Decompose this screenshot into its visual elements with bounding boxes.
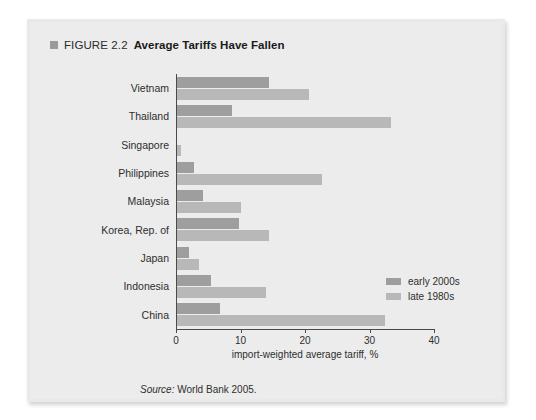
y-axis-category-labels: VietnamThailandSingaporePhilippinesMalay… [58,74,176,329]
x-axis-tick-label: 40 [428,335,439,346]
x-axis-tick [241,329,242,333]
legend-label: late 1980s [408,291,454,302]
legend-label: early 2000s [408,276,460,287]
bar [177,259,199,270]
bar [177,230,269,241]
figure-panel: FIGURE 2.2 Average Tariffs Have Fallen V… [27,19,505,402]
bar [177,247,189,258]
figure-root: FIGURE 2.2 Average Tariffs Have Fallen V… [0,0,536,420]
bar [177,117,391,128]
bar-group [177,102,434,130]
bar-group [177,187,434,215]
x-axis-tick-label: 0 [173,335,179,346]
source-label: Source: [140,384,174,395]
bar-group [177,301,434,329]
bar [177,89,309,100]
x-axis-tick-label: 20 [299,335,310,346]
legend-swatch-icon [386,278,401,285]
bar [177,174,322,185]
bar [177,145,181,156]
y-axis-label: Malaysia [58,187,176,215]
bar-group [177,131,434,159]
y-axis-label: China [58,301,176,329]
bar [177,77,269,88]
y-axis-label: Thailand [58,102,176,130]
bar [177,303,220,314]
x-axis-tick-label: 30 [364,335,375,346]
bar [177,105,232,116]
bar [177,287,266,298]
y-axis-label: Philippines [58,159,176,187]
x-axis-tick [370,329,371,333]
chart-plot-area: VietnamThailandSingaporePhilippinesMalay… [30,22,502,399]
x-axis-tick [176,329,177,333]
source-value: World Bank 2005. [177,384,256,395]
bar [177,218,239,229]
legend-item: early 2000s [386,274,460,289]
y-axis-label: Indonesia [58,272,176,300]
bar-group [177,74,434,102]
source-note: Source: World Bank 2005. [140,384,257,395]
legend-item: late 1980s [386,289,460,304]
bar-group [177,159,434,187]
bar-group [177,216,434,244]
bar [177,202,241,213]
x-axis-tick [434,329,435,333]
x-axis-tick [305,329,306,333]
figure-panel-inner: FIGURE 2.2 Average Tariffs Have Fallen V… [30,22,502,399]
bar [177,162,194,173]
bar [177,190,203,201]
y-axis-label: Japan [58,244,176,272]
bar-group [177,244,434,272]
legend-swatch-icon [386,293,401,300]
x-axis-tick-label: 10 [235,335,246,346]
y-axis-label: Singapore [58,131,176,159]
y-axis-label: Vietnam [58,74,176,102]
chart-legend: early 2000slate 1980s [386,274,460,304]
x-axis-title: import-weighted average tariff, % [176,349,434,360]
bar [177,315,385,326]
y-axis-label: Korea, Rep. of [58,216,176,244]
bar [177,275,211,286]
